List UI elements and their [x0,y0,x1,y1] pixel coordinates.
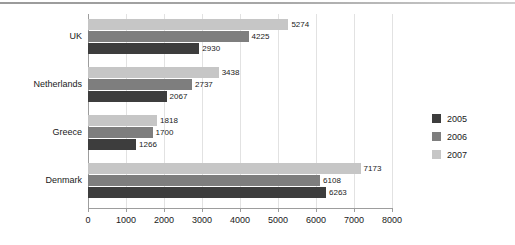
legend-label: 2007 [447,150,467,160]
bar-greece-2007[interactable] [88,115,157,126]
category-label-uk: UK [69,31,82,41]
bar-row: 2930 [88,43,392,54]
bar-group-denmark: 717361086263 [88,163,392,199]
tick-mark-6000 [316,208,317,212]
legend-item-2006[interactable]: 2006 [432,129,467,144]
bar-group-greece: 181817001266 [88,115,392,151]
bar-group-netherlands: 343827372067 [88,67,392,103]
category-label-greece: Greece [52,127,82,137]
legend-swatch-icon [432,132,441,141]
legend-item-2007[interactable]: 2007 [432,147,467,162]
legend-label: 2006 [447,132,467,142]
bar-row: 7173 [88,163,392,174]
bar-denmark-2006[interactable] [88,175,320,186]
bar-value-label: 2067 [167,91,188,102]
bar-denmark-2005[interactable] [88,187,326,198]
bar-denmark-2007[interactable] [88,163,361,174]
bar-uk-2006[interactable] [88,31,249,42]
tick-label-3000: 3000 [192,215,212,225]
category-label-netherlands: Netherlands [33,79,82,89]
bar-greece-2005[interactable] [88,139,136,150]
tick-label-5000: 5000 [268,215,288,225]
tick-mark-4000 [240,208,241,212]
bar-row: 5274 [88,19,392,30]
bar-row: 3438 [88,67,392,78]
tick-mark-0 [88,208,89,212]
bar-value-label: 7173 [361,163,382,174]
bar-value-label: 6263 [326,187,347,198]
category-axis-labels: UKNetherlandsGreeceDenmark [0,14,82,208]
top-divider-rule [0,2,515,4]
bar-value-label: 1700 [153,127,174,138]
bar-row: 6263 [88,187,392,198]
gridline-8000 [392,14,393,208]
legend-label: 2005 [447,114,467,124]
bar-row: 1700 [88,127,392,138]
bar-row: 2737 [88,79,392,90]
bar-value-label: 4225 [249,31,270,42]
tick-label-1000: 1000 [116,215,136,225]
tick-mark-3000 [202,208,203,212]
legend-swatch-icon [432,114,441,123]
bar-value-label: 1266 [136,139,157,150]
category-label-denmark: Denmark [45,175,82,185]
bar-row: 1818 [88,115,392,126]
tick-label-4000: 4000 [230,215,250,225]
bar-value-label: 1818 [157,115,178,126]
tick-mark-2000 [164,208,165,212]
bar-greece-2006[interactable] [88,127,153,138]
bar-netherlands-2005[interactable] [88,91,167,102]
bar-value-label: 5274 [288,19,309,30]
bar-uk-2005[interactable] [88,43,199,54]
tick-mark-8000 [392,208,393,212]
tick-label-7000: 7000 [344,215,364,225]
bar-group-uk: 527442252930 [88,19,392,55]
bar-value-label: 2737 [192,79,213,90]
tick-mark-7000 [354,208,355,212]
bar-netherlands-2007[interactable] [88,67,219,78]
legend-swatch-icon [432,150,441,159]
plot-area: 5274422529303438273720671818170012667173… [88,14,392,208]
bar-row: 4225 [88,31,392,42]
bar-netherlands-2006[interactable] [88,79,192,90]
tick-mark-1000 [126,208,127,212]
tick-mark-5000 [278,208,279,212]
tick-label-8000: 8000 [382,215,402,225]
bar-row: 2067 [88,91,392,102]
bar-value-label: 2930 [199,43,220,54]
legend-item-2005[interactable]: 2005 [432,111,467,126]
bar-row: 6108 [88,175,392,186]
tick-label-6000: 6000 [306,215,326,225]
chart-screenshot: 5274422529303438273720671818170012667173… [0,0,515,245]
tick-label-2000: 2000 [154,215,174,225]
bar-value-label: 6108 [320,175,341,186]
chart-legend: 200520062007 [432,111,467,165]
bar-row: 1266 [88,139,392,150]
tick-label-0: 0 [85,215,90,225]
bar-value-label: 3438 [219,67,240,78]
bar-uk-2007[interactable] [88,19,288,30]
x-axis-ticks: 010002000300040005000600070008000 [88,208,392,234]
